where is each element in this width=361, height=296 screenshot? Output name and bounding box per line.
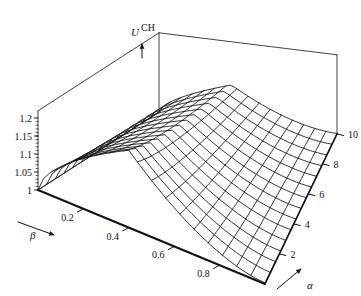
z-tick-label: 1.2 <box>20 113 33 124</box>
plot-background <box>0 0 361 296</box>
z-tick-label: 1 <box>27 185 32 196</box>
alpha-tick-label: 10 <box>348 129 358 140</box>
beta-tick-label: 0.6 <box>152 249 165 260</box>
beta-tick-label: 0.4 <box>107 231 120 242</box>
z-tick-label: 1.05 <box>15 167 33 178</box>
beta-axis-label: β <box>29 229 36 241</box>
alpha-tick-label: 8 <box>334 159 339 170</box>
alpha-axis-label: α <box>307 279 313 291</box>
z-tick-label: 1.15 <box>15 131 33 142</box>
alpha-tick-label: 6 <box>319 189 324 200</box>
beta-tick-label: 0.8 <box>197 268 210 279</box>
alpha-tick-label: 2 <box>290 249 295 260</box>
surface-plot-figure: 0.20.40.60.824681011.051.11.151.2 U CH β… <box>0 0 361 296</box>
z-axis-label: U <box>131 26 140 38</box>
beta-tick-label: 0.2 <box>61 212 74 223</box>
alpha-tick-label: 4 <box>305 219 310 230</box>
plot-canvas: 0.20.40.60.824681011.051.11.151.2 U CH β… <box>0 0 361 296</box>
z-axis-label-superscript: CH <box>141 22 155 33</box>
z-tick-label: 1.1 <box>20 149 33 160</box>
